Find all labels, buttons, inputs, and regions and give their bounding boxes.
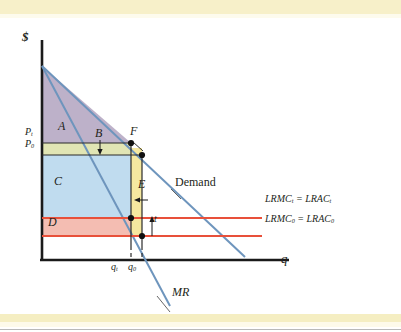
region-label-E: E [138, 178, 145, 190]
point-F-0 [139, 152, 145, 158]
cost-line-label-t: LRMCt = LRACt [265, 194, 331, 205]
region-label-D: D [48, 216, 57, 228]
x-axis-label: q [281, 252, 288, 265]
quantity-tick-qt-sub: t [116, 265, 118, 272]
price-tick-p0-sub: 0 [31, 142, 34, 149]
quantity-tick-q0: q0 [128, 262, 136, 273]
cost-line-0-lrac-sub: 0 [331, 217, 334, 224]
y-axis-label: $ [22, 30, 29, 43]
plot-area [0, 18, 401, 312]
top-decorative-band [0, 0, 401, 14]
cost-line-t-lrmc: LRMC [265, 193, 292, 204]
price-tick-p0: P0 [25, 139, 34, 150]
quantity-tick-qt: qt [111, 262, 118, 273]
price-tick-pt: Pt [25, 127, 33, 138]
point-mr-cross-t [128, 215, 134, 221]
cost-line-t-lrac-sub: t [330, 197, 332, 204]
price-tick-pt-sub: t [31, 130, 33, 137]
cost-line-0-eq: = [295, 213, 307, 224]
cost-line-t-lrac: LRAC [305, 193, 329, 204]
cost-line-t-eq: = [293, 193, 305, 204]
point-mr-cross-0 [139, 233, 145, 239]
demand-curve-label: Demand [175, 176, 216, 188]
region-E-shape [131, 148, 142, 236]
region-label-F: F [130, 125, 137, 137]
bottom-rule [0, 329, 401, 330]
bottom-decorative-band [0, 314, 401, 322]
cost-line-0-lrmc: LRMC [265, 213, 292, 224]
region-label-A: A [58, 120, 65, 132]
region-label-B: B [95, 127, 102, 139]
point-F-t [128, 140, 134, 146]
figure-root: $ q Pt P0 qt q0 A B C D E F t Demand MR … [0, 0, 401, 332]
bottom-decorative-band-2 [0, 322, 401, 327]
region-label-C: C [54, 175, 62, 187]
tax-arrow-label: t [154, 214, 157, 224]
cost-line-label-0: LRMC0 = LRAC0 [265, 214, 334, 225]
cost-line-0-lrac: LRAC [307, 213, 331, 224]
quantity-tick-q0-sub: 0 [133, 265, 136, 272]
mr-curve-label: MR [172, 286, 189, 298]
